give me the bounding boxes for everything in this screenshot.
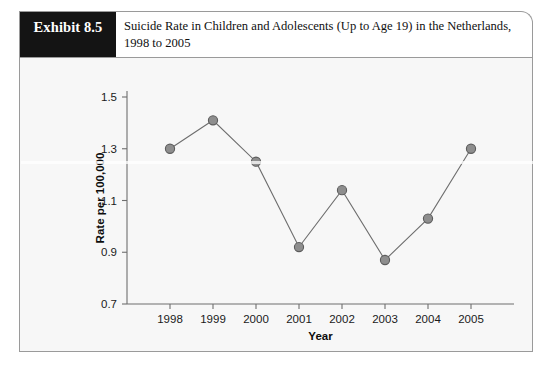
x-tick-label: 2005 xyxy=(458,313,484,325)
y-axis-ticks xyxy=(122,97,127,304)
series-line-path xyxy=(170,120,471,260)
data-point-2005 xyxy=(466,144,475,153)
exhibit-title-line-2: 1998 to 2005 xyxy=(124,35,524,52)
y-tick-label: 0.9 xyxy=(101,246,117,258)
x-tick-label: 2003 xyxy=(372,313,398,325)
x-tick-label: 2001 xyxy=(286,313,312,325)
x-tick-label: 2002 xyxy=(329,313,355,325)
exhibit-title-line-1: Suicide Rate in Children and Adolescents… xyxy=(124,18,524,35)
exhibit-number-badge: Exhibit 8.5 xyxy=(20,12,116,59)
x-tick-label: 2004 xyxy=(415,313,441,325)
y-tick-label: 1.5 xyxy=(101,91,117,103)
line-chart: 0.70.91.11.31.5 199819992000200120022003… xyxy=(20,58,532,351)
exhibit-body: 0.70.91.11.31.5 199819992000200120022003… xyxy=(19,57,533,352)
data-point-2004 xyxy=(423,214,432,223)
series-markers xyxy=(165,116,475,265)
x-tick-label: 1998 xyxy=(157,313,183,325)
chart-plot-area: 0.70.91.11.31.5 199819992000200120022003… xyxy=(20,58,532,351)
data-point-2002 xyxy=(337,186,346,195)
data-point-2001 xyxy=(294,242,303,251)
exhibit-title: Suicide Rate in Children and Adolescents… xyxy=(124,18,524,51)
x-axis-tick-labels: 19981999200020012002200320042005 xyxy=(157,313,484,325)
x-tick-label: 2000 xyxy=(243,313,269,325)
exhibit-card: Exhibit 8.5 Suicide Rate in Children and… xyxy=(19,11,533,352)
data-point-2000 xyxy=(251,157,260,166)
exhibit-header: Exhibit 8.5 Suicide Rate in Children and… xyxy=(19,11,533,58)
data-point-1998 xyxy=(165,144,174,153)
x-axis-title: Year xyxy=(308,330,333,342)
data-point-1999 xyxy=(208,116,217,125)
data-point-2003 xyxy=(380,255,389,264)
x-axis-ticks xyxy=(170,304,471,309)
y-axis-title: Rate per 100,000 xyxy=(94,153,106,244)
x-tick-label: 1999 xyxy=(200,313,226,325)
y-tick-label: 0.7 xyxy=(101,298,117,310)
